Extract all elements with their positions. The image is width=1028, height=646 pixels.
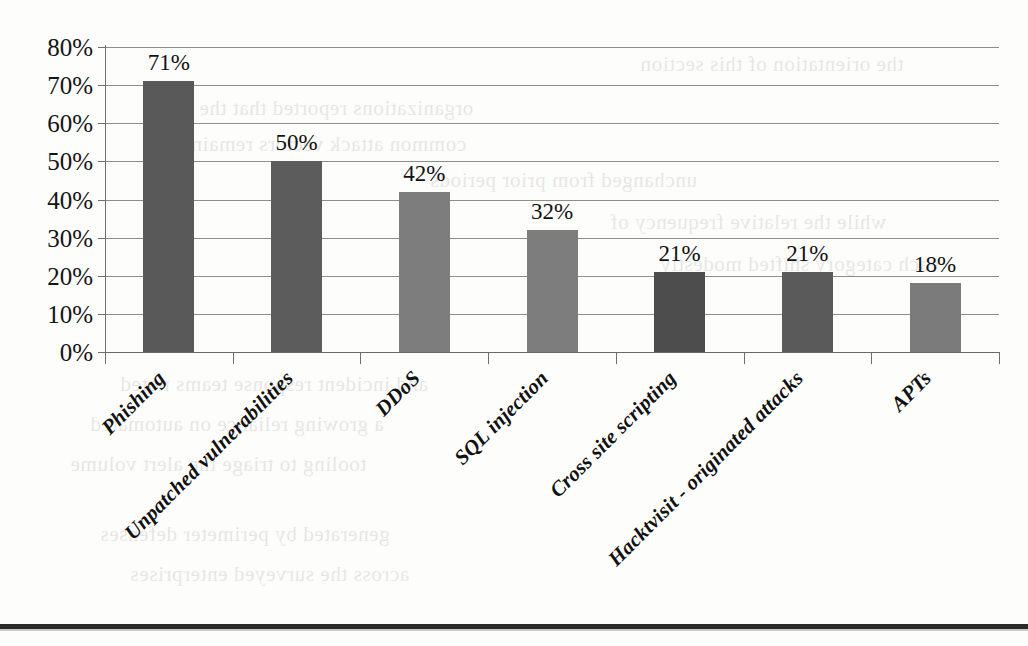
y-axis-tick-label: 80%	[7, 35, 93, 60]
y-axis-tick-label: 70%	[7, 73, 93, 98]
y-axis-tick-label: 20%	[7, 263, 93, 288]
y-axis-tick	[98, 200, 106, 201]
y-axis-tick	[98, 47, 106, 48]
bar-column[interactable]	[910, 47, 961, 352]
x-axis-tick	[488, 353, 489, 364]
bar[interactable]	[654, 272, 705, 352]
y-axis-tick	[98, 161, 106, 162]
bar[interactable]	[271, 161, 322, 352]
x-axis-tick	[105, 353, 106, 364]
y-axis-tick-label: 50%	[7, 149, 93, 174]
y-axis-labels: 0%10%20%30%40%50%60%70%80%	[0, 0, 93, 600]
bar-column[interactable]	[654, 47, 705, 352]
y-axis-tick	[98, 238, 106, 239]
bar[interactable]	[399, 192, 450, 352]
y-axis-tick-label: 0%	[7, 340, 93, 365]
category-label: DDoS	[371, 366, 426, 421]
bar-column[interactable]	[143, 47, 194, 352]
bar-column[interactable]	[271, 47, 322, 352]
x-axis-tick	[233, 353, 234, 364]
bar[interactable]	[527, 230, 578, 352]
x-axis-tick	[871, 353, 872, 364]
y-axis-tick	[98, 314, 106, 315]
y-axis-tick	[98, 276, 106, 277]
y-axis-tick-label: 40%	[7, 187, 93, 212]
x-axis-tick	[616, 353, 617, 364]
x-axis-tick	[360, 353, 361, 364]
y-axis-tick	[98, 123, 106, 124]
bar-value-label: 71%	[109, 51, 229, 74]
y-axis-tick	[98, 85, 106, 86]
bottom-divider-shadow	[0, 629, 1028, 631]
figure-page: the orientation of this section organiza…	[0, 0, 1028, 646]
bar[interactable]	[910, 283, 961, 352]
category-label: APTs	[886, 366, 937, 417]
bar-column[interactable]	[399, 47, 450, 352]
category-label: SQL injection	[449, 366, 553, 470]
bar[interactable]	[782, 272, 833, 352]
x-axis-tick	[999, 353, 1000, 364]
x-axis-tick	[744, 353, 745, 364]
category-label: Cross site scripting	[545, 366, 682, 503]
bar-value-label: 50%	[237, 131, 357, 154]
bar-value-label: 42%	[364, 162, 484, 185]
bar-chart: 0%10%20%30%40%50%60%70%80% 71%50%42%32%2…	[0, 0, 1028, 600]
bar-value-label: 32%	[492, 200, 612, 223]
x-axis-line	[105, 352, 1000, 353]
bar-value-label: 21%	[620, 242, 740, 265]
bar-value-label: 18%	[875, 253, 995, 276]
category-label: Phishing	[96, 366, 170, 440]
bar[interactable]	[143, 81, 194, 352]
bar-column[interactable]	[782, 47, 833, 352]
bar-value-label: 21%	[747, 242, 867, 265]
y-axis-tick-label: 10%	[7, 301, 93, 326]
y-axis-tick-label: 60%	[7, 111, 93, 136]
y-axis-tick-label: 30%	[7, 225, 93, 250]
